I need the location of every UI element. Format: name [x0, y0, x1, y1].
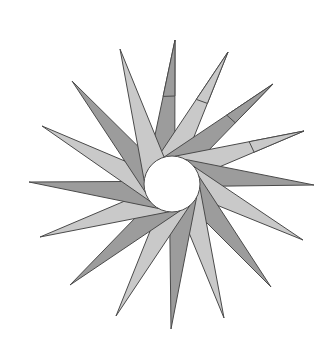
star-spike-tip-overlay [163, 40, 175, 96]
star-spike-tip-overlay [196, 52, 228, 103]
pinwheel-star-figure [0, 0, 336, 351]
center-circle [144, 156, 200, 212]
star-spike-tip-overlay [227, 84, 273, 123]
star-spike-tip-overlay [249, 131, 304, 152]
